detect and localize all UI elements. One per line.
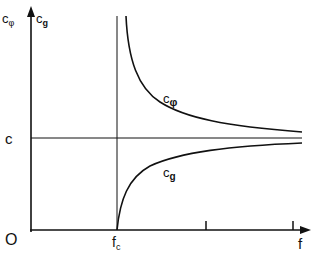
dispersion-diagram: cφ cg c O fc f cφ cg [0, 0, 317, 257]
origin-label: O [5, 231, 17, 248]
cutoff-label: fc [112, 234, 121, 252]
asymptote-label: c [5, 130, 13, 147]
phase-curve-label: cφ [163, 91, 178, 108]
y-label-group: cg [36, 11, 48, 28]
group-velocity-curve [117, 143, 302, 230]
y-axis-arrow-icon [27, 6, 35, 17]
y-label-phase: cφ [2, 11, 15, 28]
x-axis-label: f [298, 235, 303, 252]
phase-velocity-curve [126, 16, 302, 132]
x-axis-arrow-icon [300, 226, 311, 234]
group-curve-label: cg [163, 165, 176, 182]
